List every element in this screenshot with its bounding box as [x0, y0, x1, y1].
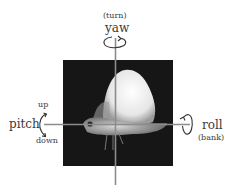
- roll-label: roll: [202, 119, 223, 131]
- pitch-down-label: down: [36, 137, 58, 145]
- pitch-label: pitch: [9, 118, 40, 130]
- pitch-up-label: up: [38, 101, 48, 109]
- roll-sublabel: (bank): [198, 134, 224, 142]
- yaw-label: yaw: [105, 22, 129, 34]
- yaw-sublabel: (turn): [103, 12, 127, 20]
